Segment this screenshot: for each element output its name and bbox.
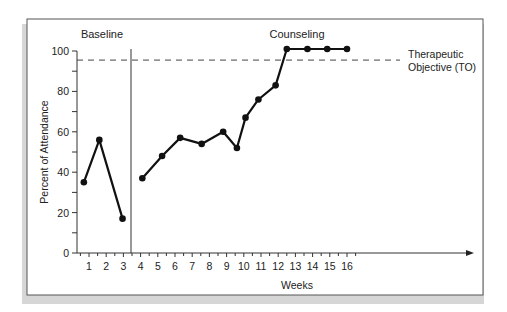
data-point [242,114,249,121]
data-point [198,141,205,148]
data-point [284,46,291,53]
x-tick-label: 4 [138,260,144,272]
data-point [255,96,262,103]
x-tick-label: 5 [155,260,161,272]
attendance-chart: 02040608010012345678910111213141516 Base… [0,0,507,312]
x-tick-label: 15 [324,260,336,272]
data-point [81,179,88,186]
data-point [177,135,184,142]
y-tick-label: 80 [57,85,69,97]
x-tick-label: 13 [290,260,302,272]
y-tick-label: 60 [57,126,69,138]
y-tick-label: 40 [57,166,69,178]
x-tick-label: 7 [189,260,195,272]
x-tick-label: 11 [256,260,267,272]
x-tick-label: 1 [86,260,92,272]
x-axis-title: Weeks [281,279,313,291]
data-point [159,153,166,160]
data-point [96,137,103,144]
data-point [139,175,146,182]
data-point [324,46,331,53]
y-tick-label: 100 [51,45,69,57]
x-tick-label: 12 [272,260,284,272]
baseline-phase-label: Baseline [81,28,123,40]
data-point [272,82,279,89]
x-tick-label: 10 [238,260,250,272]
x-tick-label: 6 [172,260,178,272]
x-tick-label: 14 [307,260,319,272]
data-point [304,46,311,53]
y-tick-label: 0 [63,247,69,259]
data-point [220,129,227,136]
y-tick-label: 20 [57,207,69,219]
x-tick-label: 16 [341,260,353,272]
x-tick-label: 9 [224,260,230,272]
x-tick-label: 8 [206,260,212,272]
to-label-line1: Therapeutic [408,48,463,60]
data-point [119,215,126,222]
data-point [344,46,351,53]
y-axis-title: Percent of Attendance [38,100,50,203]
counseling-phase-label: Counseling [269,28,324,40]
data-point [234,145,241,152]
to-label-line2: Objective (TO) [408,61,476,73]
x-tick-label: 3 [120,260,126,272]
x-tick-label: 2 [103,260,109,272]
